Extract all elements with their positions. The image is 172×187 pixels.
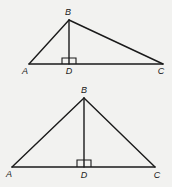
segment-bc — [69, 20, 163, 64]
vertex-label-d: D — [66, 66, 73, 76]
segment-ab — [12, 98, 84, 167]
vertex-label-d: D — [81, 170, 88, 180]
diagram-canvas: A B C D A B C D — [0, 0, 172, 187]
vertex-label-b: B — [81, 85, 87, 95]
vertex-label-a: A — [21, 66, 28, 76]
bottom-triangle: A B C D — [5, 85, 161, 180]
vertex-label-c: C — [154, 170, 161, 180]
segment-ab — [29, 20, 69, 64]
segment-bc — [84, 98, 155, 167]
top-triangle: A B C D — [21, 7, 165, 76]
vertex-label-c: C — [158, 66, 165, 76]
vertex-label-b: B — [65, 7, 71, 17]
vertex-label-a: A — [5, 169, 12, 179]
